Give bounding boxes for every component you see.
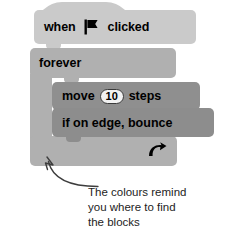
annotation-line-1: The colours remind (88, 185, 228, 200)
steps-label: steps (129, 89, 162, 103)
move-steps-input[interactable]: 10 (100, 89, 124, 104)
annotation-line-2: you where to find (88, 200, 228, 215)
block-if-on-edge-bounce[interactable]: if on edge, bounce (52, 108, 214, 137)
green-flag-icon (84, 19, 99, 35)
scratch-script-diagram: when clicked forever move 10 steps if on… (0, 0, 228, 233)
annotation-text: The colours remind you where to find the… (88, 185, 228, 230)
forever-label: forever (39, 56, 81, 70)
bounce-block-notch (66, 137, 81, 142)
block-when-flag-clicked[interactable]: when clicked (34, 10, 196, 44)
block-move-steps[interactable]: move 10 steps (52, 82, 200, 110)
annotation-line-3: the blocks (88, 215, 228, 230)
clicked-label: clicked (108, 20, 150, 34)
if-on-edge-bounce-label: if on edge, bounce (62, 116, 172, 130)
when-label: when (44, 20, 76, 34)
move-label: move (62, 89, 95, 103)
loop-arrow-icon (146, 140, 168, 162)
